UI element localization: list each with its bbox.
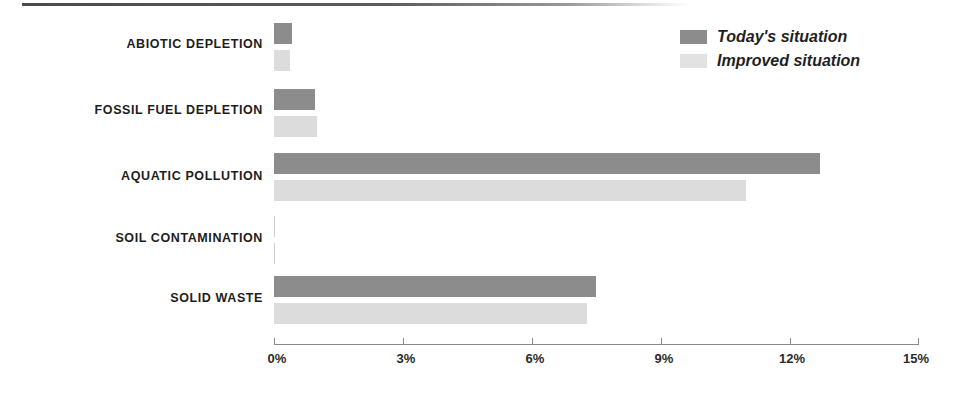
chart-legend: Today's situation Improved situation (680, 26, 860, 74)
bar-today-abiotic-depletion (274, 23, 292, 44)
bar-today-soil-contamination (274, 216, 275, 237)
category-label-solid-waste: SOLID WASTE (170, 292, 263, 305)
category-label-fossil-fuel-depletion: FOSSIL FUEL DEPLETION (95, 104, 263, 117)
bar-improved-soil-contamination (274, 243, 275, 264)
x-axis-tick-12 (790, 338, 791, 345)
legend-swatch-icon-today (680, 30, 707, 44)
x-axis-tick-15 (918, 338, 919, 345)
x-axis-label-9: 9% (655, 352, 674, 365)
bar-improved-solid-waste (274, 303, 587, 324)
legend-swatch-icon-improved (680, 54, 707, 68)
plot-area: ABIOTIC DEPLETION FOSSIL FUEL DEPLETION … (0, 0, 969, 394)
x-axis-tick-0 (274, 338, 275, 345)
bar-today-fossil-fuel-depletion (274, 89, 315, 110)
chart-figure: ABIOTIC DEPLETION FOSSIL FUEL DEPLETION … (0, 0, 969, 394)
x-axis-label-3: 3% (397, 352, 416, 365)
bar-today-solid-waste (274, 276, 596, 297)
bar-improved-fossil-fuel-depletion (274, 116, 317, 137)
category-label-aquatic-pollution: AQUATIC POLLUTION (121, 170, 263, 183)
x-axis-label-15: 15% (903, 352, 929, 365)
x-axis-line (274, 344, 918, 345)
x-axis-tick-6 (532, 338, 533, 345)
category-label-abiotic-depletion: ABIOTIC DEPLETION (126, 38, 263, 51)
category-label-soil-contamination: SOIL CONTAMINATION (115, 232, 263, 245)
bar-improved-abiotic-depletion (274, 50, 290, 71)
x-axis-label-6: 6% (526, 352, 545, 365)
x-axis-label-0: 0% (268, 352, 287, 365)
x-axis-label-12: 12% (779, 352, 805, 365)
x-axis-tick-9 (661, 338, 662, 345)
x-axis-tick-3 (403, 338, 404, 345)
bar-today-aquatic-pollution (274, 153, 820, 174)
legend-label-today: Today's situation (717, 29, 847, 45)
legend-label-improved: Improved situation (717, 53, 860, 69)
legend-item-improved-situation: Improved situation (680, 50, 860, 71)
bar-improved-aquatic-pollution (274, 180, 746, 201)
legend-item-todays-situation: Today's situation (680, 26, 860, 47)
